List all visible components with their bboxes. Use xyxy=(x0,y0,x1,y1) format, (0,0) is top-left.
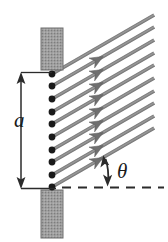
source-dot xyxy=(49,184,56,191)
source-dot xyxy=(49,121,56,128)
top-barrier-block xyxy=(41,28,63,70)
figure-canvas xyxy=(0,0,168,242)
source-dot xyxy=(49,96,56,103)
source-dot xyxy=(49,83,56,90)
slit-width-label: a xyxy=(14,110,25,131)
source-dot xyxy=(49,109,56,116)
bottom-barrier-block xyxy=(41,190,63,238)
ray xyxy=(51,13,155,75)
source-dot xyxy=(49,134,56,141)
single-slit-diffraction-figure: a θ xyxy=(0,0,168,242)
source-dot xyxy=(49,159,56,166)
source-dot xyxy=(49,71,56,78)
angle-theta-label: θ xyxy=(117,161,127,182)
source-dot xyxy=(49,147,56,154)
source-dot xyxy=(49,172,56,179)
